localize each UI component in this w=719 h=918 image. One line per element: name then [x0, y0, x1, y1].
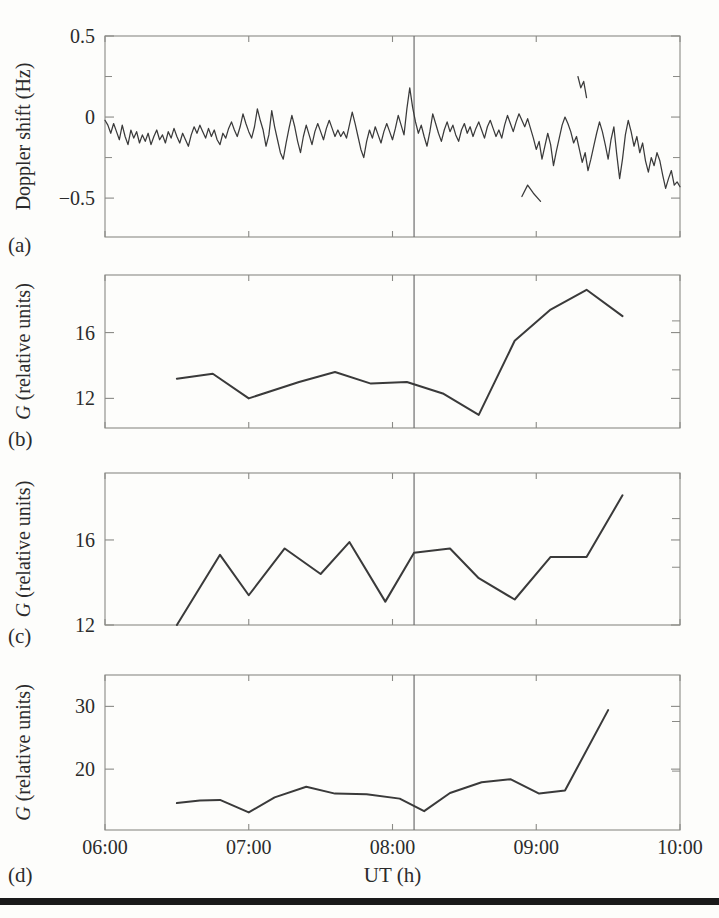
panel-c-ytick-label-1: 12 — [75, 614, 95, 636]
panel-c-group: 1612 — [75, 473, 680, 636]
panel-c-ylabel-text: G (relative units) — [12, 481, 35, 618]
panel-a-series-doppler-fragment-upper — [578, 77, 587, 98]
panel-d-label: (d) — [8, 863, 33, 887]
panel-d-axes-frame — [105, 675, 680, 830]
panel-a-group: 0.50−0.5 — [59, 25, 680, 237]
panel-b-ytick-label-0: 16 — [75, 322, 95, 344]
panel-b-axes-frame — [105, 275, 680, 428]
panel-b-ylabel: G (relative units) — [12, 283, 35, 420]
panel-d-ylabel-text: G (relative units) — [12, 684, 35, 821]
panel-a-ytick-label-0: 0.5 — [70, 25, 95, 47]
panel-b-group: 1612 — [75, 275, 680, 428]
panel-a-series-doppler-fragment-lower — [522, 185, 541, 201]
panel-b-label: (b) — [8, 427, 33, 451]
panel-d-ytick-label-0: 30 — [75, 695, 95, 717]
panel-c-label: (c) — [8, 624, 31, 648]
panel-a-series-doppler-main — [105, 88, 680, 188]
panel-b-ylabel-text: G (relative units) — [12, 283, 35, 420]
panel-d-ylabel: G (relative units) — [12, 684, 35, 821]
panel-c-ylabel: G (relative units) — [12, 481, 35, 618]
panel-d-ytick-label-1: 20 — [75, 758, 95, 780]
panel-c-ytick-label-0: 16 — [75, 529, 95, 551]
panel-a-ylabel-text: Doppler shift (Hz) — [12, 63, 35, 211]
footer-rule — [0, 898, 719, 905]
panel-d-series-G-panel-d — [177, 710, 608, 812]
panel-a-ytick-label-1: 0 — [85, 106, 95, 128]
panel-a-ylabel: Doppler shift (Hz) — [12, 63, 35, 211]
panel-d-group: 3020 — [75, 675, 680, 830]
xtick-label-4: 10:00 — [657, 836, 703, 858]
panel-b-ytick-label-1: 12 — [75, 387, 95, 409]
xtick-label-3: 09:00 — [513, 836, 559, 858]
xtick-label-2: 08:00 — [370, 836, 416, 858]
figure-panel-group: 0.50−0.5Doppler shift (Hz)(a)1612G (rela… — [0, 0, 719, 918]
multi-panel-chart-svg: 0.50−0.5Doppler shift (Hz)(a)1612G (rela… — [0, 0, 719, 918]
x-axis-label: UT (h) — [364, 863, 421, 887]
panel-b-series-G-panel-b — [177, 290, 623, 415]
panel-a-label: (a) — [8, 233, 31, 257]
panel-a-ytick-label-2: −0.5 — [59, 187, 95, 209]
panel-c-series-G-panel-c — [177, 495, 623, 625]
xtick-label-1: 07:00 — [226, 836, 272, 858]
xtick-label-0: 06:00 — [82, 836, 128, 858]
